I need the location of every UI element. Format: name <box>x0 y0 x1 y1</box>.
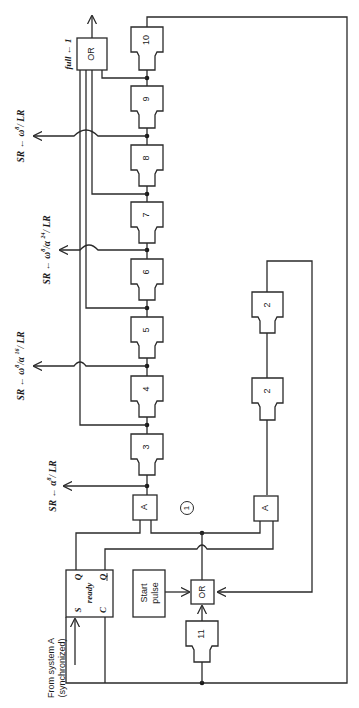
label-full: full ← 1 <box>63 38 73 69</box>
latch-c-label: C <box>98 606 108 613</box>
svg-text:6: 6 <box>141 269 151 274</box>
svg-text:pulse: pulse <box>150 582 160 604</box>
logic-circuit-diagram: OR 10 9 8 7 6 5 4 <box>0 0 359 708</box>
delay-block-9: 9 <box>131 86 163 128</box>
delay-block-3: 3 <box>131 434 163 475</box>
and-gate-main: A <box>133 495 157 520</box>
svg-text:SR ← ω8/α 24/ LR: SR ← ω8/α 24/ LR <box>40 215 52 284</box>
latch-ready-label: ready <box>84 582 94 603</box>
svg-text:A: A <box>260 505 270 511</box>
delay-block-6: 6 <box>131 259 163 300</box>
svg-text:SR ← α8/ LR: SR ← α8/ LR <box>46 460 58 511</box>
label-sr-omega8: SR ← ω8/ LR <box>14 110 26 163</box>
loop-block-2-upper: 2 <box>252 292 283 333</box>
svg-text:From system A: From system A <box>46 638 56 698</box>
label-sr-omega8-alpha24: SR ← ω8/α 24/ LR <box>40 215 52 284</box>
svg-text:3: 3 <box>141 444 151 449</box>
latch-s-label: S <box>73 607 83 612</box>
svg-text:(synchronized): (synchronized) <box>57 638 67 697</box>
svg-text:4: 4 <box>141 386 151 391</box>
ready-latch: S Q ready C Q <box>66 570 113 617</box>
svg-text:8: 8 <box>141 155 151 160</box>
svg-text:1: 1 <box>182 505 191 510</box>
delay-block-4: 4 <box>131 376 163 417</box>
svg-text:5: 5 <box>141 327 151 332</box>
svg-text:SR ← ω8/ LR: SR ← ω8/ LR <box>14 110 26 163</box>
delay-block-11: 11 <box>186 621 218 662</box>
loop-block-2-lower: 2 <box>252 378 283 420</box>
circle-marker: 1 <box>181 502 194 515</box>
or-input-bus <box>80 70 147 425</box>
svg-text:Start: Start <box>139 583 149 603</box>
svg-text:10: 10 <box>141 35 151 45</box>
latch-q-label: Q <box>73 573 83 580</box>
and-gate-main-wires <box>76 520 273 570</box>
or-gate-top: OR <box>77 38 107 70</box>
svg-text:9: 9 <box>141 96 151 101</box>
and-gate-loop: A <box>254 496 278 521</box>
or-gate-bottom: OR <box>191 580 214 604</box>
input-label: From system A (synchronized) <box>46 638 67 698</box>
svg-text:7: 7 <box>141 212 151 217</box>
start-pulse-box: Start pulse <box>133 570 165 617</box>
delay-block-8: 8 <box>131 145 163 186</box>
svg-text:full ← 1: full ← 1 <box>63 38 73 69</box>
svg-text:A: A <box>139 504 149 510</box>
delay-block-7: 7 <box>131 202 163 243</box>
delay-block-5: 5 <box>131 317 163 358</box>
svg-text:2: 2 <box>262 388 272 393</box>
svg-text:SR ← ω8/α 16/ LR: SR ← ω8/α 16/ LR <box>14 331 26 400</box>
svg-text:2: 2 <box>262 302 272 307</box>
svg-text:11: 11 <box>196 629 206 638</box>
svg-text:OR: OR <box>197 586 207 599</box>
or-gate-top-label: OR <box>86 47 96 61</box>
delay-block-10: 10 <box>131 27 163 70</box>
label-sr-omega8-alpha16: SR ← ω8/α 16/ LR <box>14 331 26 400</box>
label-sr-alpha8: SR ← α8/ LR <box>46 460 58 511</box>
